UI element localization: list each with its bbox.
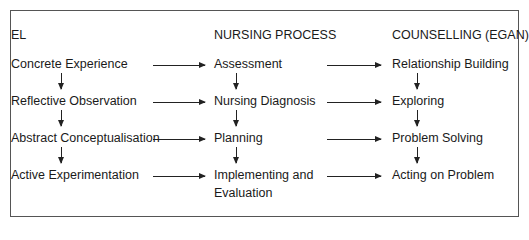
egan-exploring: Exploring	[392, 94, 444, 108]
arrow-right-icon	[153, 176, 205, 177]
egan-acting-on-problem: Acting on Problem	[392, 168, 494, 182]
arrow-down-icon	[417, 147, 418, 163]
el-active-experimentation: Active Experimentation	[11, 168, 139, 182]
el-reflective-observation: Reflective Observation	[11, 94, 137, 108]
np-implementing: Implementing and	[214, 168, 313, 182]
el-abstract-conceptualisation: Abstract Conceptualisation	[11, 131, 160, 145]
arrow-down-icon	[417, 73, 418, 89]
arrow-down-icon	[236, 73, 237, 89]
arrow-down-icon	[61, 110, 62, 126]
arrow-right-icon	[327, 139, 381, 140]
egan-relationship-building: Relationship Building	[392, 57, 509, 71]
arrow-right-icon	[153, 139, 205, 140]
arrow-right-icon	[327, 176, 381, 177]
np-assessment: Assessment	[214, 57, 282, 71]
column-header-nursing-process: NURSING PROCESS	[214, 28, 336, 42]
arrow-down-icon	[61, 147, 62, 163]
el-concrete-experience: Concrete Experience	[11, 57, 128, 71]
arrow-right-icon	[327, 65, 381, 66]
arrow-down-icon	[61, 73, 62, 89]
arrow-right-icon	[327, 102, 381, 103]
column-header-counselling: COUNSELLING (EGAN)	[392, 28, 529, 42]
np-planning: Planning	[214, 131, 263, 145]
arrow-down-icon	[417, 110, 418, 126]
arrow-down-icon	[236, 147, 237, 163]
column-header-el: EL	[11, 28, 26, 42]
arrow-down-icon	[236, 110, 237, 126]
arrow-right-icon	[153, 102, 205, 103]
np-evaluation: Evaluation	[214, 186, 272, 200]
arrow-right-icon	[153, 65, 205, 66]
egan-problem-solving: Problem Solving	[392, 131, 483, 145]
np-nursing-diagnosis: Nursing Diagnosis	[214, 94, 315, 108]
